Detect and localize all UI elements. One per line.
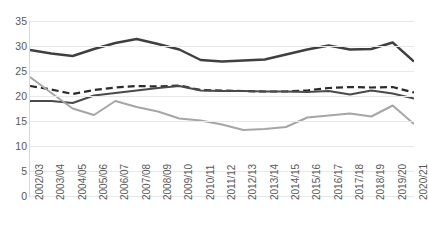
x-axis-tick-2008-09: 2008/09 (152, 198, 164, 248)
y-axis-tick-35: 35 (1, 16, 27, 26)
y-axis-labels: 05101520253035 (0, 0, 27, 250)
x-axis-tick-label: 2015/16 (311, 164, 322, 200)
x-axis-tick-label: 2009/10 (183, 164, 194, 200)
x-axis-tick-2003-04: 2003/04 (45, 198, 57, 248)
x-axis-tick-label: 2005/06 (98, 164, 109, 200)
series-3-dark-solid-lower (30, 86, 414, 103)
chart-title (0, 0, 427, 5)
gridline-35 (30, 21, 414, 22)
gridline-15 (30, 121, 414, 122)
y-axis-tick-20: 20 (1, 91, 27, 101)
x-axis-labels: 2002/032003/042004/052005/062006/072007/… (30, 198, 414, 250)
x-axis-tick-2011-12: 2011/12 (216, 198, 228, 248)
x-axis-tick-label: 2020/21 (418, 164, 429, 200)
x-axis-tick-label: 2018/19 (375, 164, 386, 200)
gridline-20 (30, 96, 414, 97)
x-axis-tick-2013-14: 2013/14 (259, 198, 271, 248)
x-axis-tick-label: 2004/05 (77, 164, 88, 200)
x-axis-tick-2020-21: 2020/21 (408, 198, 420, 248)
x-axis-tick-label: 2006/07 (119, 164, 130, 200)
x-axis-tick-2012-13: 2012/13 (237, 198, 249, 248)
x-axis-tick-2018-19: 2018/19 (365, 198, 377, 248)
x-axis-tick-2007-08: 2007/08 (131, 198, 143, 248)
x-axis-tick-2006-07: 2006/07 (109, 198, 121, 248)
y-axis-tick-25: 25 (1, 66, 27, 76)
x-axis-tick-2004-05: 2004/05 (67, 198, 79, 248)
x-axis-tick-label: 2002/03 (34, 164, 45, 200)
y-axis-tick-10: 10 (1, 141, 27, 151)
gridline-25 (30, 71, 414, 72)
x-axis-tick-2017-18: 2017/18 (344, 198, 356, 248)
x-axis-tick-label: 2019/20 (397, 164, 408, 200)
x-axis-tick-label: 2008/09 (162, 164, 173, 200)
x-axis-tick-label: 2011/12 (226, 165, 237, 200)
y-axis-tick-15: 15 (1, 116, 27, 126)
x-axis-tick-label: 2014/15 (290, 164, 301, 200)
gridline-30 (30, 46, 414, 47)
y-axis-tick-5: 5 (1, 166, 27, 176)
x-axis-tick-label: 2003/04 (55, 164, 66, 200)
x-axis-tick-2019-20: 2019/20 (387, 198, 399, 248)
x-axis-tick-2014-15: 2014/15 (280, 198, 292, 248)
x-axis-tick-label: 2016/17 (333, 164, 344, 200)
x-axis-tick-label: 2013/14 (269, 164, 280, 200)
series-4-light-grey-solid (30, 77, 414, 130)
series-1-dark-solid-upper (30, 39, 414, 62)
x-axis-tick-2010-11: 2010/11 (195, 198, 207, 248)
x-axis-tick-2016-17: 2016/17 (323, 198, 335, 248)
x-axis-tick-label: 2017/18 (354, 164, 365, 200)
gridline-10 (30, 146, 414, 147)
x-axis-tick-label: 2012/13 (247, 164, 258, 200)
y-axis-tick-30: 30 (1, 41, 27, 51)
x-axis-tick-2002-03: 2002/03 (24, 198, 36, 248)
x-axis-tick-label: 2010/11 (205, 165, 216, 200)
x-axis-tick-2005-06: 2005/06 (88, 198, 100, 248)
x-axis-tick-2009-10: 2009/10 (173, 198, 185, 248)
x-axis-tick-label: 2007/08 (141, 164, 152, 200)
x-axis-tick-2015-16: 2015/16 (301, 198, 313, 248)
